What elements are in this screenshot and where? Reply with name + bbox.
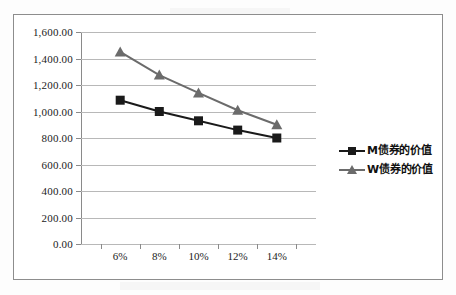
triangle-marker (193, 87, 204, 97)
y-axis-label: 1,000.00 (33, 106, 73, 118)
scan-smudge (120, 282, 320, 290)
y-axis-label: 800.00 (42, 132, 73, 144)
square-marker (233, 126, 242, 135)
x-axis-label: 10% (188, 250, 208, 262)
square-marker (155, 107, 164, 116)
x-axis-label: 12% (228, 250, 248, 262)
y-axis-tick (76, 244, 81, 245)
x-axis-label: 14% (267, 250, 287, 262)
x-axis-tick (179, 244, 180, 249)
triangle-marker-icon (339, 164, 365, 176)
y-axis-label: 200.00 (42, 212, 73, 224)
x-axis-label: 8% (152, 250, 167, 262)
chart-page: 0.00200.00400.00600.00800.001,000.001,20… (0, 0, 456, 295)
chart-frame: 0.00200.00400.00600.00800.001,000.001,20… (13, 14, 443, 280)
y-axis-label: 400.00 (42, 185, 73, 197)
x-axis-tick (218, 244, 219, 249)
y-axis-label: 1,600.00 (33, 26, 73, 38)
x-axis-tick (101, 244, 102, 249)
y-axis-label: 0.00 (53, 238, 73, 250)
x-axis-tick (296, 244, 297, 249)
plot-area: 0.00200.00400.00600.00800.001,000.001,20… (81, 32, 316, 244)
y-axis-label: 600.00 (42, 159, 73, 171)
square-marker (194, 116, 203, 125)
gridline (81, 244, 316, 245)
y-axis-label: 1,400.00 (33, 53, 73, 65)
x-axis-tick (257, 244, 258, 249)
triangle-marker (232, 105, 243, 115)
legend-label-m: M债券的价值 (367, 141, 432, 160)
square-marker (272, 134, 281, 143)
legend-item-w: W债券的价值 (339, 160, 449, 179)
x-axis-tick (140, 244, 141, 249)
triangle-marker (115, 46, 126, 56)
x-axis-label: 6% (113, 250, 128, 262)
chart-legend: M债券的价值 W债券的价值 (339, 141, 449, 179)
triangle-marker (154, 70, 165, 80)
legend-item-m: M债券的价值 (339, 141, 449, 160)
series-plot (81, 32, 316, 244)
square-marker-icon (339, 145, 365, 157)
square-marker (116, 96, 125, 105)
y-axis-label: 1,200.00 (33, 79, 73, 91)
legend-label-w: W债券的价值 (367, 160, 433, 179)
